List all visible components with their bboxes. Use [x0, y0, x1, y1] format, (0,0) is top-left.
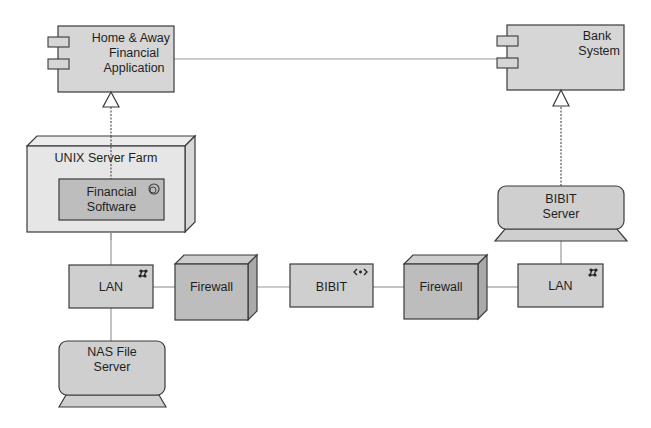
component-port-icon: [48, 59, 69, 69]
interface-bibit[interactable]: [290, 264, 373, 307]
component-port-icon: [497, 36, 518, 46]
node-firewall-right[interactable]: [404, 255, 487, 319]
component-port-icon: [497, 58, 518, 68]
device-bibit-server[interactable]: [495, 186, 627, 241]
realization-arrow-icon: [103, 92, 119, 107]
network-lan-right[interactable]: [518, 264, 603, 307]
component-port-icon: [48, 37, 69, 47]
component-bank-system[interactable]: [497, 25, 624, 90]
realization-arrow-icon: [553, 90, 569, 106]
node-firewall-left[interactable]: [175, 255, 257, 320]
device-nas-file-server[interactable]: [59, 341, 166, 407]
component-home-away[interactable]: [48, 26, 174, 92]
network-lan-left[interactable]: [69, 265, 153, 308]
object-financial-software[interactable]: [59, 179, 164, 220]
diagram-canvas: [0, 0, 651, 428]
